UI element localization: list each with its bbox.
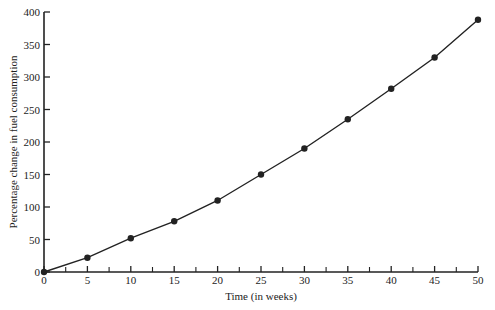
x-tick-label: 20 [212,274,224,286]
data-point-marker [84,255,90,261]
line-chart: 0510152025303540455005010015020025030035… [0,0,495,310]
y-tick-label: 150 [24,169,41,181]
x-tick-label: 0 [41,274,47,286]
x-tick-label: 30 [299,274,311,286]
y-tick-label: 200 [24,136,41,148]
y-tick-label: 400 [24,6,41,18]
x-tick-label: 25 [256,274,268,286]
y-tick-label: 300 [24,71,41,83]
data-point-marker [345,116,351,122]
x-tick-label: 5 [85,274,91,286]
data-point-marker [128,235,134,241]
x-tick-label: 40 [386,274,398,286]
y-axis-label: Percentage change in fuel consumption [7,55,19,228]
axes: 0510152025303540455005010015020025030035… [24,6,485,286]
data-point-marker [171,218,177,224]
x-tick-label: 15 [169,274,181,286]
data-series [41,17,481,276]
y-tick-label: 350 [24,39,41,51]
x-tick-label: 10 [125,274,137,286]
x-tick-label: 35 [342,274,354,286]
y-tick-label: 50 [29,234,41,246]
x-axis-label: Time (in weeks) [225,290,297,303]
data-point-marker [258,171,264,177]
data-point-marker [301,145,307,151]
x-tick-label: 45 [429,274,441,286]
series-line [44,20,478,272]
data-point-marker [41,269,47,275]
y-tick-label: 250 [24,104,41,116]
data-point-marker [214,197,220,203]
data-point-marker [431,54,437,60]
data-point-marker [475,17,481,23]
y-tick-label: 100 [24,201,41,213]
x-tick-label: 50 [473,274,485,286]
y-tick-label: 0 [35,266,41,278]
data-point-marker [388,86,394,92]
